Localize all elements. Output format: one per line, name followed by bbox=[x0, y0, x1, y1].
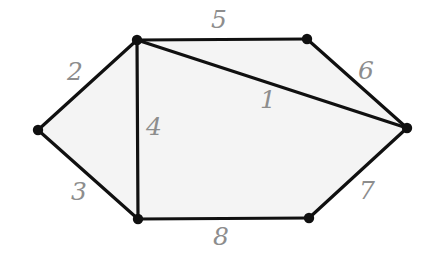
edge-label-7: 7 bbox=[359, 176, 375, 205]
edge-label-4: 4 bbox=[145, 112, 162, 141]
edge-line-5[interactable] bbox=[137, 39, 307, 40]
vertex-dot-right[interactable] bbox=[402, 123, 412, 133]
edge-label-3: 3 bbox=[71, 177, 87, 206]
edge-line-8[interactable] bbox=[138, 218, 309, 219]
vertex-dot-bottom-right[interactable] bbox=[304, 213, 314, 223]
vertex-dot-bottom-left[interactable] bbox=[133, 214, 143, 224]
edge-label-5: 5 bbox=[211, 5, 227, 34]
edge-label-8: 8 bbox=[213, 222, 229, 251]
vertex-dot-top-right[interactable] bbox=[302, 34, 312, 44]
diagram-canvas: 1 2 3 4 5 6 7 8 bbox=[0, 0, 431, 258]
edge-line-4[interactable] bbox=[137, 40, 138, 219]
edge-label-6: 6 bbox=[358, 56, 374, 85]
edge-label-2: 2 bbox=[66, 57, 83, 86]
vertex-dot-left[interactable] bbox=[33, 125, 43, 135]
hexagon-face-fill bbox=[38, 39, 407, 219]
vertex-dot-top-left[interactable] bbox=[132, 35, 142, 45]
graph-diagram: 1 2 3 4 5 6 7 8 bbox=[0, 0, 431, 258]
edge-label-1: 1 bbox=[260, 85, 276, 114]
